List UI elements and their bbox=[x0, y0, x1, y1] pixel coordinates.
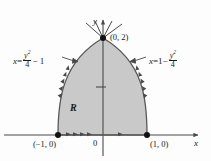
origin-label: 0 bbox=[93, 139, 97, 148]
right-eq-exponent: 2 bbox=[173, 49, 176, 55]
left-eq-equals: = bbox=[17, 56, 22, 66]
right-eq-minus: − bbox=[163, 56, 168, 66]
left-equation: x=y24− 1 bbox=[13, 50, 44, 69]
left-eq-denominator: 4 bbox=[23, 61, 31, 69]
point-right-intercept bbox=[144, 132, 150, 138]
point-label-left-intercept: (−1, 0) bbox=[33, 140, 56, 149]
figure-container: y x 0 (0, 2) (−1, 0) (1, 0) R x=y24− 1 x… bbox=[0, 0, 211, 161]
left-eq-exponent: 2 bbox=[28, 49, 31, 55]
right-equation-leader bbox=[130, 57, 146, 63]
plot-svg bbox=[0, 0, 211, 161]
point-label-right-intercept: (1, 0) bbox=[150, 140, 168, 149]
right-equation: x=1−y24 bbox=[149, 50, 178, 69]
left-eq-tail: − 1 bbox=[32, 56, 44, 66]
point-label-top-vertex: (0, 2) bbox=[110, 33, 128, 42]
point-top-vertex bbox=[100, 35, 106, 41]
left-equation-leader bbox=[62, 57, 78, 63]
left-eq-fraction: y24 bbox=[23, 50, 31, 69]
point-left-intercept bbox=[55, 132, 61, 138]
x-axis-label: x bbox=[194, 139, 198, 148]
y-axis-label: y bbox=[93, 17, 97, 26]
right-eq-fraction: y24 bbox=[169, 50, 177, 69]
right-eq-denominator: 4 bbox=[169, 61, 177, 69]
region-label: R bbox=[70, 103, 77, 113]
